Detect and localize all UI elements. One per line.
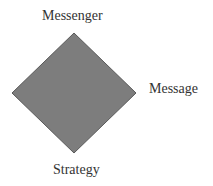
label-messenger: Messenger [42,9,103,23]
diamond-shape [12,33,136,153]
label-strategy: Strategy [53,163,100,177]
label-message: Message [149,82,198,96]
